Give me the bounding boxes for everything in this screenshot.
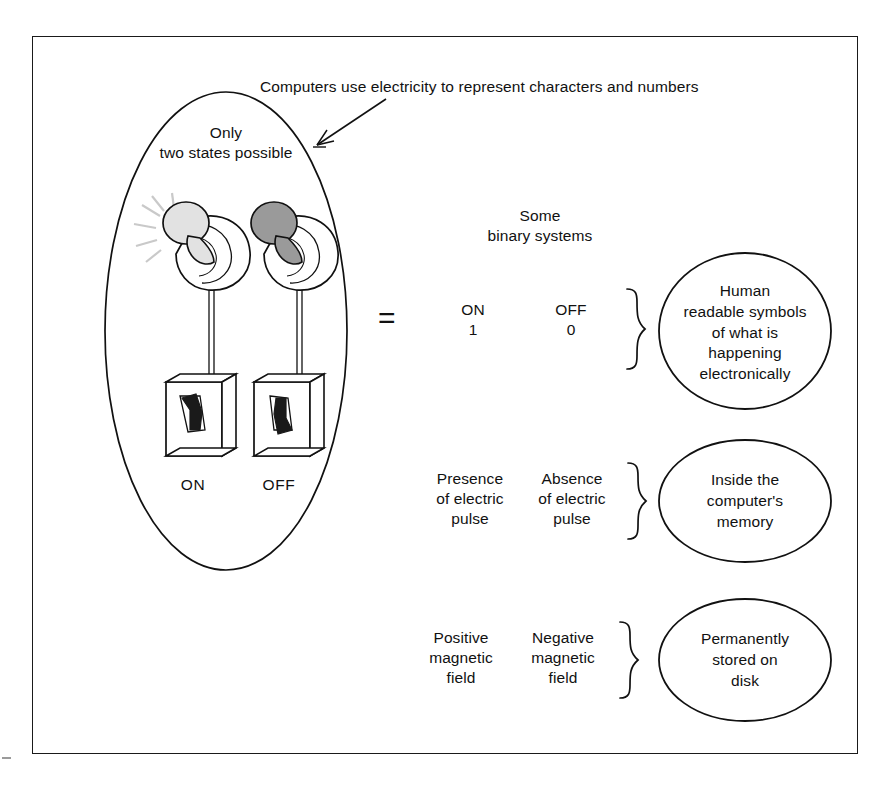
- page-edge-mark: [2, 757, 11, 759]
- row-3-off-cell: Negative magnetic field: [512, 628, 614, 687]
- row-3-result-text: Permanently stored on disk: [672, 629, 818, 691]
- row-1-result-text: Human readable symbols of what is happen…: [672, 281, 818, 385]
- binary-systems-header: Some binary systems: [450, 206, 630, 246]
- diagram-page: Computers use electricity to represent c…: [0, 0, 892, 794]
- diagram-title: Computers use electricity to represent c…: [260, 77, 880, 97]
- bulb-label-on: ON: [162, 475, 224, 495]
- row-1-on-cell: ON 1: [425, 300, 521, 340]
- bulb-label-off: OFF: [248, 475, 310, 495]
- equals-sign: =: [378, 303, 396, 333]
- row-2-result-text: Inside the computer's memory: [672, 470, 818, 532]
- two-states-caption: Only two states possible: [126, 123, 326, 163]
- row-2-off-cell: Absence of electric pulse: [520, 469, 624, 528]
- row-3-on-cell: Positive magnetic field: [410, 628, 512, 687]
- row-1-off-cell: OFF 0: [523, 300, 619, 340]
- row-2-on-cell: Presence of electric pulse: [418, 469, 522, 528]
